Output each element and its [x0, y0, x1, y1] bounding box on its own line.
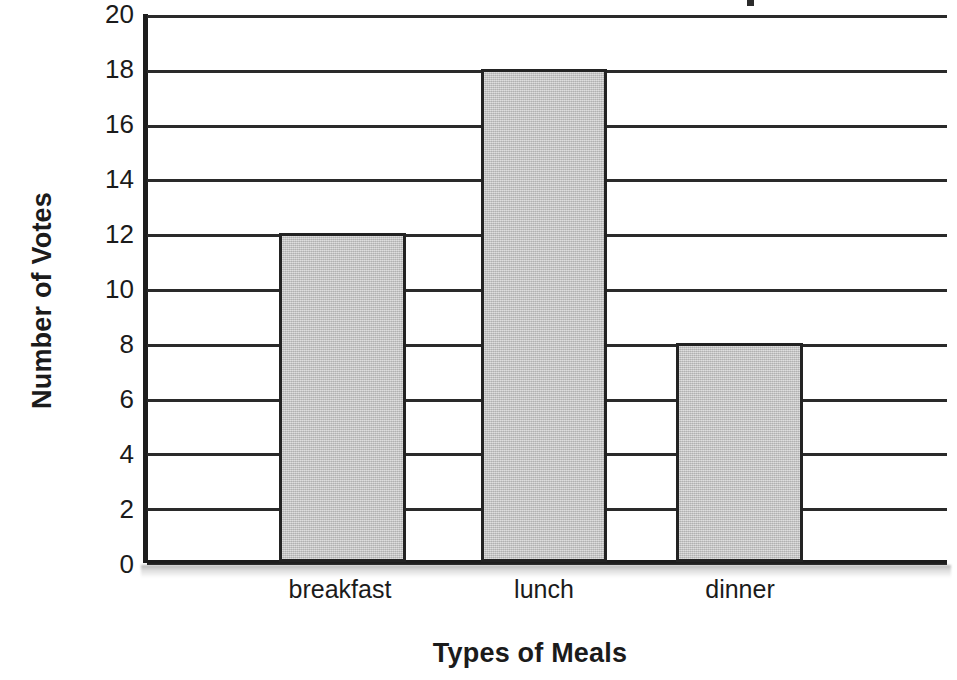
y-axis-title: Number of Votes	[27, 171, 58, 431]
x-tick-label-breakfast: breakfast	[240, 577, 440, 602]
y-tick-label-18: 18	[72, 56, 134, 82]
y-tick-label-4: 4	[72, 441, 134, 467]
x-tick-label-lunch: lunch	[444, 577, 644, 602]
bar-breakfast	[279, 233, 406, 562]
y-tick-label-20: 20	[72, 1, 134, 27]
bar-dinner	[676, 343, 803, 562]
y-tick-label-16: 16	[72, 111, 134, 137]
y-tick-label-12: 12	[72, 221, 134, 247]
x-axis-title: Types of Meals	[0, 638, 957, 669]
x-tick-label-dinner: dinner	[640, 577, 840, 602]
plot-area	[147, 15, 947, 562]
y-axis-tick-labels: 20 18 16 14 12 10 8 6 4 2 0	[72, 0, 134, 680]
y-tick-label-10: 10	[72, 276, 134, 302]
cropped-title-ink-fragment	[747, 0, 754, 6]
y-tick-label-14: 14	[72, 166, 134, 192]
y-tick-label-6: 6	[72, 386, 134, 412]
gridline-20	[147, 15, 947, 18]
bar-lunch	[481, 69, 607, 562]
y-tick-label-2: 2	[72, 496, 134, 522]
y-tick-label-8: 8	[72, 331, 134, 357]
y-tick-label-0: 0	[72, 551, 134, 577]
